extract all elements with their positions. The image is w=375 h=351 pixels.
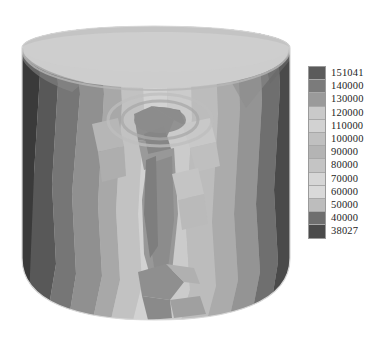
legend-swatch [309,120,325,133]
legend-label: 38027 [331,224,364,237]
legend-label: 130000 [331,92,364,105]
contour-plot-svg [14,14,296,324]
legend-swatch [309,173,325,186]
figure-canvas: 151041 140000 130000 120000 110000 10000… [0,0,375,351]
legend-swatch [309,225,325,238]
legend-label: 40000 [331,211,364,224]
legend-label: 110000 [331,119,364,132]
legend-label: 90000 [331,145,364,158]
contour-bands [14,14,296,324]
legend-label: 60000 [331,185,364,198]
legend-label-column: 151041 140000 130000 120000 110000 10000… [331,66,364,237]
legend-label: 140000 [331,79,364,92]
legend-swatch [309,107,325,120]
contour-legend: 151041 140000 130000 120000 110000 10000… [308,66,364,239]
legend-swatch [309,186,325,199]
legend-label: 100000 [331,132,364,145]
legend-swatch [309,67,325,80]
legend-swatch [309,93,325,106]
legend-swatch [309,133,325,146]
contour-plot [14,14,296,324]
legend-swatch [309,199,325,212]
legend-label: 50000 [331,198,364,211]
legend-swatch [309,159,325,172]
legend-label: 120000 [331,106,364,119]
legend-swatch [309,146,325,159]
legend-label: 70000 [331,172,364,185]
legend-label: 151041 [331,66,364,79]
legend-swatch [309,212,325,225]
legend-label: 80000 [331,158,364,171]
legend-swatch-column [308,66,326,239]
legend-swatch [309,80,325,93]
